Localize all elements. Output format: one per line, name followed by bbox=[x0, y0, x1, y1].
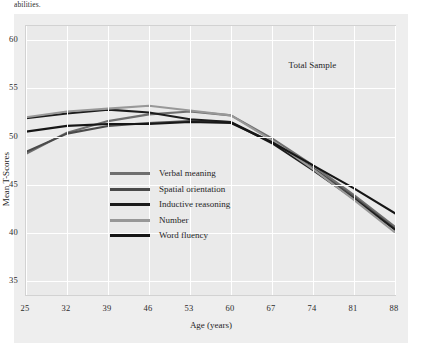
legend-swatch-icon-3 bbox=[110, 219, 150, 222]
gridline-x-88 bbox=[395, 26, 396, 295]
y-tick-45: 45 bbox=[0, 179, 18, 189]
x-tick-88: 88 bbox=[390, 303, 399, 313]
legend-item-4: Word fluency bbox=[110, 228, 230, 244]
legend-item-0: Verbal meaning bbox=[110, 166, 230, 182]
gridline-x-53 bbox=[190, 26, 191, 295]
x-tick-81: 81 bbox=[349, 303, 358, 313]
gridline-x-32 bbox=[67, 26, 68, 295]
figure-panel: Mean T-Scores Age (years) 354045505560 2… bbox=[14, 14, 408, 343]
gridline-y-50 bbox=[26, 137, 395, 138]
gridline-x-67 bbox=[272, 26, 273, 295]
x-tick-39: 39 bbox=[103, 303, 112, 313]
legend-label-3: Number bbox=[159, 216, 189, 225]
x-tick-25: 25 bbox=[21, 303, 30, 313]
x-tick-74: 74 bbox=[308, 303, 317, 313]
chart-legend: Verbal meaningSpatial orientationInducti… bbox=[110, 166, 230, 244]
gridline-y-35 bbox=[26, 281, 395, 282]
gridline-x-60 bbox=[231, 26, 232, 295]
x-tick-67: 67 bbox=[267, 303, 276, 313]
legend-swatch-icon-2 bbox=[110, 203, 150, 206]
y-tick-40: 40 bbox=[0, 227, 18, 237]
gridline-y-60 bbox=[26, 40, 395, 41]
x-tick-32: 32 bbox=[62, 303, 71, 313]
page-body-text: abilities. bbox=[14, 0, 41, 9]
series-lines bbox=[26, 26, 395, 295]
y-tick-50: 50 bbox=[0, 131, 18, 141]
legend-swatch-icon-1 bbox=[110, 188, 150, 191]
y-tick-55: 55 bbox=[0, 82, 18, 92]
legend-swatch-icon-4 bbox=[110, 234, 150, 237]
legend-label-0: Verbal meaning bbox=[159, 169, 216, 178]
chart-annotation: Total Sample bbox=[289, 60, 337, 70]
y-tick-60: 60 bbox=[0, 34, 18, 44]
legend-label-4: Word fluency bbox=[159, 231, 208, 240]
gridline-y-55 bbox=[26, 88, 395, 89]
x-tick-53: 53 bbox=[185, 303, 194, 313]
x-tick-46: 46 bbox=[144, 303, 153, 313]
gridline-x-46 bbox=[149, 26, 150, 295]
x-axis-label: Age (years) bbox=[14, 320, 408, 330]
x-tick-60: 60 bbox=[226, 303, 235, 313]
gridline-x-81 bbox=[354, 26, 355, 295]
plot-area bbox=[25, 25, 396, 296]
legend-swatch-icon-0 bbox=[110, 172, 150, 175]
gridline-x-39 bbox=[108, 26, 109, 295]
legend-item-1: Spatial orientation bbox=[110, 182, 230, 198]
gridline-x-25 bbox=[26, 26, 27, 295]
y-tick-35: 35 bbox=[0, 275, 18, 285]
legend-item-3: Number bbox=[110, 213, 230, 229]
legend-item-2: Inductive reasoning bbox=[110, 197, 230, 213]
legend-label-2: Inductive reasoning bbox=[159, 200, 230, 209]
legend-label-1: Spatial orientation bbox=[159, 185, 225, 194]
